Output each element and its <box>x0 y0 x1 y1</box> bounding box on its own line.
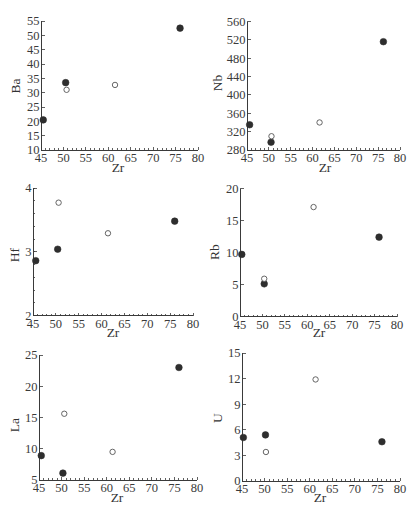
open-circle-marker <box>269 134 274 139</box>
y-axis-label: U <box>210 413 225 423</box>
x-tick-label: 65 <box>124 151 137 165</box>
x-tick-label: 70 <box>346 318 359 332</box>
x-tick-label: 65 <box>123 481 136 495</box>
y-tick-label: 3 <box>25 245 31 259</box>
series-open-circle <box>269 120 322 139</box>
x-tick-label: 50 <box>258 482 271 496</box>
filled-circle-marker <box>238 251 245 258</box>
x-tick-label: 50 <box>55 481 68 495</box>
filled-circle-marker <box>54 246 61 253</box>
x-tick-label: 55 <box>281 482 294 496</box>
series-filled-circle <box>240 432 385 445</box>
y-tick-label: 12 <box>228 372 241 386</box>
y-tick-label: 35 <box>27 72 40 86</box>
filled-circle-marker <box>380 38 387 45</box>
x-tick-label: 75 <box>371 482 384 496</box>
open-circle-marker <box>311 204 316 209</box>
open-circle-marker <box>317 120 322 125</box>
x-tick-label: 75 <box>368 318 381 332</box>
x-tick-label: 70 <box>141 317 154 331</box>
open-circle-marker <box>262 276 267 281</box>
y-tick-label: 5 <box>31 473 37 487</box>
y-tick-label: 360 <box>227 107 246 121</box>
filled-circle-marker <box>177 25 184 32</box>
scatter-panel-rb: 455055606570758005101520ZrRb <box>207 182 403 340</box>
x-tick-label: 55 <box>72 317 85 331</box>
scatter-panel-ba: 455055606570758010152025303540455055ZrBa <box>8 14 204 175</box>
y-tick-label: 320 <box>227 125 246 139</box>
x-tick-label: 75 <box>169 151 182 165</box>
scatter-panel-la: 4550556065707580510152025ZrLa <box>7 348 203 505</box>
filled-circle-marker <box>62 79 69 86</box>
y-tick-label: 4 <box>25 181 32 195</box>
y-axis-label: Hf <box>7 247 22 262</box>
series-filled-circle <box>40 25 183 123</box>
filled-circle-marker <box>379 438 386 445</box>
y-tick-label: 45 <box>27 43 40 57</box>
y-axis-label: Nb <box>210 75 225 92</box>
y-tick-label: 280 <box>227 143 246 157</box>
open-circle-marker <box>56 200 61 205</box>
y-tick-label: 55 <box>27 14 40 28</box>
series-open-circle <box>64 82 118 92</box>
x-axis-label: Zr <box>111 490 124 505</box>
scatter-plot-matrix: 455055606570758010152025303540455055ZrBa… <box>0 0 420 515</box>
series-open-circle <box>62 411 116 455</box>
y-tick-label: 10 <box>226 246 239 260</box>
series-filled-circle <box>246 38 386 145</box>
y-tick-label: 560 <box>227 15 246 29</box>
filled-circle-marker <box>240 434 247 441</box>
filled-circle-marker <box>40 117 47 124</box>
y-tick-label: 20 <box>25 380 38 394</box>
y-axis-label: Rb <box>207 244 222 260</box>
y-tick-label: 400 <box>227 88 246 102</box>
y-tick-label: 40 <box>27 57 40 71</box>
x-tick-label: 75 <box>372 151 385 165</box>
x-tick-label: 80 <box>191 481 204 495</box>
y-tick-label: 440 <box>227 70 246 84</box>
x-tick-label: 55 <box>279 318 292 332</box>
figure-canvas: 455055606570758010152025303540455055ZrBa… <box>0 0 420 515</box>
y-tick-label: 15 <box>27 129 40 143</box>
x-tick-label: 65 <box>118 317 131 331</box>
y-tick-label: 50 <box>27 29 40 43</box>
y-tick-label: 0 <box>234 474 240 488</box>
open-circle-marker <box>62 411 67 416</box>
y-tick-label: 20 <box>226 182 239 196</box>
y-tick-label: 15 <box>228 346 241 360</box>
scatter-panel-u: 455055606570758003691215ZrU <box>210 346 406 505</box>
series-filled-circle <box>38 364 182 476</box>
x-tick-label: 55 <box>78 481 91 495</box>
x-tick-label: 80 <box>394 151 407 165</box>
y-tick-label: 25 <box>25 348 38 362</box>
series-open-circle <box>263 377 318 455</box>
x-axis-label: Zr <box>313 325 326 340</box>
y-tick-label: 15 <box>25 411 38 425</box>
filled-circle-marker <box>32 257 39 264</box>
x-tick-label: 75 <box>168 481 181 495</box>
x-axis-label: Zr <box>319 160 332 175</box>
y-tick-label: 30 <box>27 86 40 100</box>
x-tick-label: 55 <box>80 151 93 165</box>
open-circle-marker <box>263 449 268 454</box>
y-tick-label: 5 <box>232 278 238 292</box>
filled-circle-marker <box>262 432 269 439</box>
x-axis-label: Zr <box>314 490 327 505</box>
y-tick-label: 9 <box>234 398 240 412</box>
series-open-circle <box>262 204 317 281</box>
x-tick-label: 80 <box>391 318 404 332</box>
filled-circle-marker <box>171 218 178 225</box>
x-tick-label: 65 <box>326 482 339 496</box>
filled-circle-marker <box>376 234 383 241</box>
series-filled-circle <box>32 218 178 264</box>
open-circle-marker <box>105 231 110 236</box>
y-tick-label: 15 <box>226 214 239 228</box>
y-tick-label: 0 <box>232 310 238 324</box>
y-tick-label: 3 <box>234 449 240 463</box>
x-tick-label: 70 <box>146 481 159 495</box>
open-circle-marker <box>313 377 318 382</box>
x-tick-label: 70 <box>147 151 160 165</box>
x-axis-label: Zr <box>112 160 125 175</box>
y-tick-label: 480 <box>227 52 246 66</box>
y-tick-label: 520 <box>227 33 246 47</box>
